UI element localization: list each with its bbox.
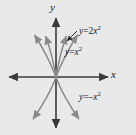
curve-label-2x-squared: y=2x2: [79, 27, 101, 37]
parabola-figure: y x y=2x2 y=x2 y=–x2: [0, 0, 136, 135]
curve-label-x-squared-exp: 2: [79, 45, 82, 52]
curve-label-x-squared: y=x2: [65, 48, 82, 58]
curve-label-negative-x-squared-exp: 2: [98, 90, 101, 97]
curve-label-2x-squared-exp: 2: [98, 24, 101, 31]
y-axis-label: y: [50, 2, 55, 13]
leader-line-2x-squared: [67, 31, 77, 41]
curve-label-negative-x-squared: y=–x2: [79, 93, 101, 103]
x-axis-label: x: [111, 69, 116, 80]
